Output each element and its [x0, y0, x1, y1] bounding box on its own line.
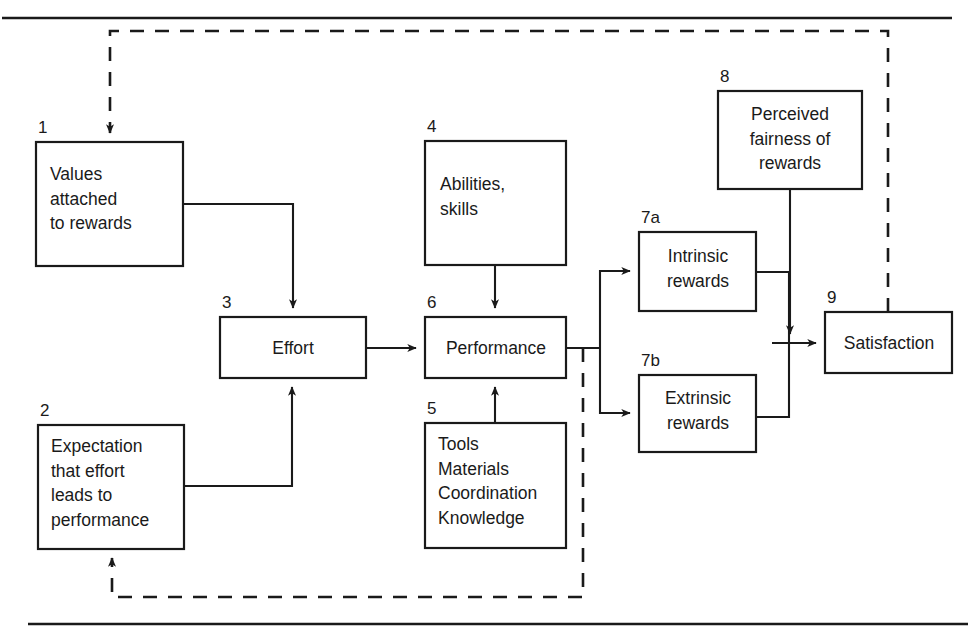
figure-canvas: 1Valuesattachedto rewards2Expectationtha…	[0, 0, 970, 635]
box-perceived-fairness-of-rewards: 8Perceivedfairness ofrewards	[718, 67, 862, 189]
connector-intrinsic-to-satisfaction	[756, 272, 789, 343]
box-number-abilities-skills: 4	[427, 117, 436, 136]
box-number-intrinsic-rewards: 7a	[641, 208, 660, 227]
box-number-expectation-that-effort-leads-to-performance: 2	[40, 401, 49, 420]
flow-diagram: 1Valuesattachedto rewards2Expectationtha…	[0, 0, 970, 635]
box-number-values-attached-to-rewards: 1	[38, 118, 47, 137]
box-number-effort: 3	[222, 293, 231, 312]
box-values-attached-to-rewards: 1Valuesattachedto rewards	[36, 118, 183, 266]
box-label-effort: Effort	[272, 338, 314, 358]
box-number-extrinsic-rewards: 7b	[641, 351, 660, 370]
box-abilities-skills: 4Abilities,skills	[425, 117, 566, 265]
connector-values-to-effort	[183, 204, 293, 308]
box-label-satisfaction: Satisfaction	[844, 333, 934, 353]
connector-split-to-extrinsic	[600, 348, 630, 413]
connector-expectation-to-effort	[184, 387, 292, 486]
box-number-perceived-fairness-of-rewards: 8	[720, 67, 729, 86]
box-label-performance: Performance	[446, 338, 546, 358]
box-intrinsic-rewards: 7aIntrinsicrewards	[639, 208, 756, 311]
box-expectation-that-effort-leads-to-performance: 2Expectationthat effortleads toperforman…	[38, 401, 184, 549]
box-extrinsic-rewards: 7bExtrinsicrewards	[639, 351, 756, 452]
connector-extrinsic-to-satisfaction	[756, 343, 789, 417]
box-number-tools-materials-coordination-knowledge: 5	[427, 399, 436, 418]
box-number-performance: 6	[427, 293, 436, 312]
connector-split-to-intrinsic	[600, 271, 630, 348]
box-label-perceived-fairness-of-rewards: Perceivedfairness ofrewards	[750, 104, 831, 173]
box-number-satisfaction: 9	[827, 288, 836, 307]
